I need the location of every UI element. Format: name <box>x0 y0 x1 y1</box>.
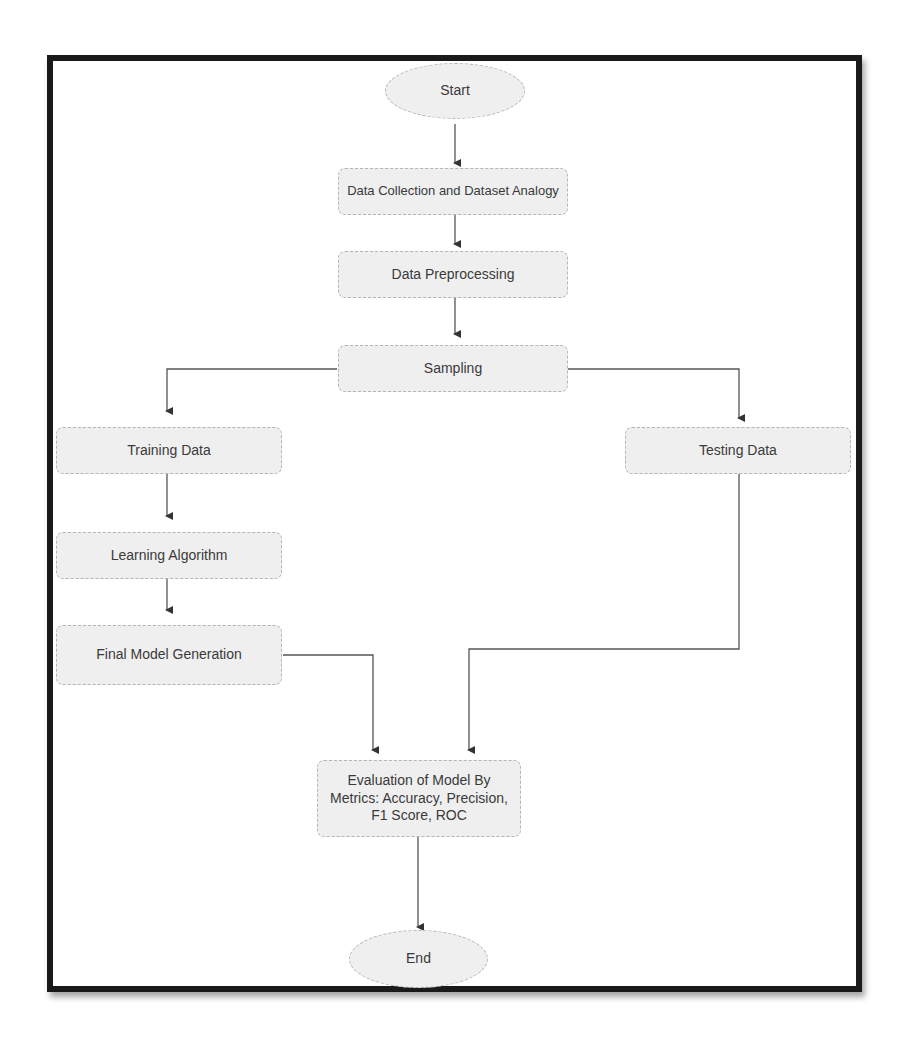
data-collection-node: Data Collection and Dataset Analogy <box>338 168 568 215</box>
connectors <box>0 0 900 1051</box>
training-data-node: Training Data <box>56 427 282 474</box>
edge-sampling-to-training <box>167 369 337 411</box>
edge-testing-to-evaluation <box>469 473 739 750</box>
end-node: End <box>349 930 488 988</box>
final-model-generation-node: Final Model Generation <box>56 625 282 685</box>
sampling-node: Sampling <box>338 345 568 392</box>
edge-sampling-to-testing <box>567 369 739 418</box>
start-node: Start <box>385 63 525 119</box>
data-preprocessing-node: Data Preprocessing <box>338 251 568 298</box>
testing-data-node: Testing Data <box>625 427 851 474</box>
edge-final-to-evaluation <box>283 655 373 750</box>
learning-algorithm-node: Learning Algorithm <box>56 532 282 579</box>
evaluation-node: Evaluation of Model By Metrics: Accuracy… <box>317 760 521 837</box>
